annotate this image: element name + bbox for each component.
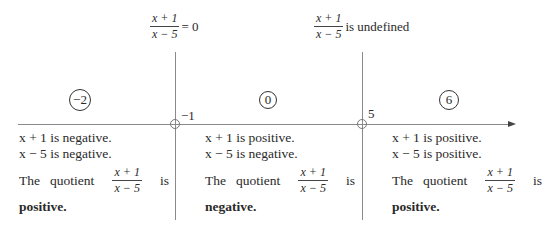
result-line: negative. <box>205 199 355 215</box>
fraction: x + 1 x − 5 <box>314 12 343 41</box>
critical-point-label: 5 <box>368 106 375 122</box>
fraction: x + 1 x − 5 <box>150 12 179 41</box>
number-line <box>18 124 510 125</box>
test-point-circle: −2 <box>69 89 91 111</box>
open-point-marker <box>170 119 180 129</box>
fraction: x + 1 x − 5 <box>485 166 514 195</box>
open-point-marker <box>357 119 367 129</box>
result-line: positive. <box>19 199 169 215</box>
arrow-right-icon <box>508 121 516 127</box>
boundary-line-neg1 <box>175 52 176 220</box>
factor-sign-line: x − 5 is positive. <box>392 146 542 162</box>
label-numerator-zero: x + 1 x − 5 = 0 <box>150 12 199 41</box>
fraction: x + 1 x − 5 <box>112 166 141 195</box>
result-line: positive. <box>392 199 542 215</box>
quotient-line: The quotient x + 1 x − 5 is <box>19 166 169 195</box>
test-point-circle: 6 <box>439 90 459 110</box>
factor-sign-line: x − 5 is negative. <box>19 146 169 162</box>
quotient-line: The quotient x + 1 x − 5 is <box>205 166 355 195</box>
region-right: x + 1 is positive. x − 5 is positive. Th… <box>392 130 542 215</box>
quotient-line: The quotient x + 1 x − 5 is <box>392 166 542 195</box>
critical-point-label: −1 <box>181 108 195 124</box>
boundary-line-5 <box>362 52 363 220</box>
fraction: x + 1 x − 5 <box>298 166 327 195</box>
region-left: x + 1 is negative. x − 5 is negative. Th… <box>19 130 169 215</box>
factor-sign-line: x − 5 is negative. <box>205 146 355 162</box>
factor-sign-line: x + 1 is positive. <box>205 130 355 146</box>
test-point-circle: 0 <box>259 91 277 109</box>
factor-sign-line: x + 1 is negative. <box>19 130 169 146</box>
region-middle: x + 1 is positive. x − 5 is negative. Th… <box>205 130 355 215</box>
label-undefined: x + 1 x − 5 is undefined <box>314 12 409 41</box>
factor-sign-line: x + 1 is positive. <box>392 130 542 146</box>
